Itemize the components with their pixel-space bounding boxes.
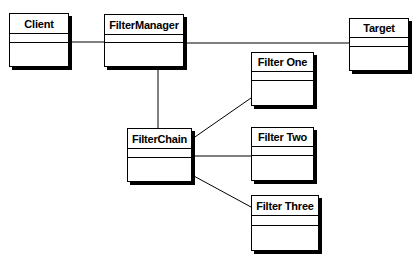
class-attributes-compartment xyxy=(350,38,408,47)
association-filterchain-filterone xyxy=(192,98,251,139)
class-attributes-compartment xyxy=(252,147,313,156)
class-name: FilterManager xyxy=(105,15,183,35)
association-filterchain-filterthree xyxy=(192,175,251,207)
class-name: Client xyxy=(10,14,68,34)
class-box-target[interactable]: Target xyxy=(349,18,409,71)
class-name: FilterChain xyxy=(128,129,191,149)
class-box-filtermanager[interactable]: FilterManager xyxy=(104,14,184,67)
class-box-filtertwo[interactable]: Filter Two xyxy=(251,127,314,181)
class-box-client[interactable]: Client xyxy=(9,13,69,67)
class-box-filterchain[interactable]: FilterChain xyxy=(127,128,192,182)
class-name: Filter Two xyxy=(252,128,313,147)
class-attributes-compartment xyxy=(252,72,313,81)
class-attributes-compartment xyxy=(252,216,318,226)
class-name: Filter One xyxy=(252,53,313,72)
class-box-filterone[interactable]: Filter One xyxy=(251,52,314,106)
uml-class-diagram: Client FilterManager Target Filter One F… xyxy=(0,0,418,263)
class-name: Filter Three xyxy=(252,196,318,216)
class-attributes-compartment xyxy=(10,34,68,43)
class-attributes-compartment xyxy=(105,35,183,43)
class-attributes-compartment xyxy=(128,149,191,158)
class-name: Target xyxy=(350,19,408,38)
class-box-filterthree[interactable]: Filter Three xyxy=(251,195,319,251)
